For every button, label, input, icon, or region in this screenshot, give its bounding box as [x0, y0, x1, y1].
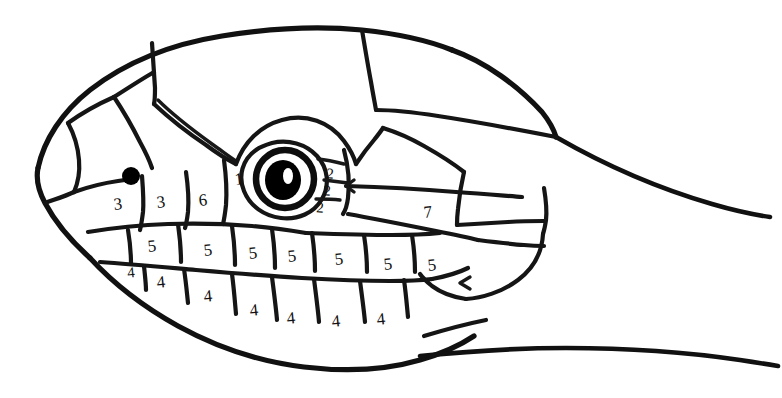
parietal-temporal-border	[376, 110, 556, 137]
scale-label-temporal: 7	[423, 203, 433, 221]
suture-supralabial-div-5	[312, 233, 315, 271]
nostril-icon	[122, 167, 140, 185]
suture-rostral-internasal	[68, 123, 79, 192]
scale-label-preocular: 6	[198, 191, 208, 209]
suture-postocular-upper-border	[356, 128, 383, 164]
neck-dorsal-line	[556, 137, 770, 217]
suture-infralabial-div-4	[272, 277, 277, 320]
scale-label-supralabial-5: 5	[334, 250, 344, 268]
suture-frontal-parietal	[362, 30, 376, 110]
scale-label-postocular-1: 2	[326, 166, 335, 181]
suture-supralabial-div-3	[232, 226, 235, 265]
neck-ventral-line	[420, 348, 778, 366]
suture-infralabial-div-1	[144, 266, 146, 290]
suture-preocular-nasal	[185, 172, 188, 228]
scale-label-nasal-2: 3	[156, 193, 166, 211]
suture-supralabial-div-2	[178, 224, 181, 262]
scale-label-supralabial-1: 5	[147, 237, 157, 255]
scale-label-nasal-1: 3	[113, 195, 123, 213]
snake-head-scalation-figure: 3 3 6 1 2 2 2 7 5 5 5 5 5 5 5 4 4 4 4 4 …	[0, 0, 782, 398]
scale-label-infralabial-5: 4	[286, 309, 296, 327]
scale-label-loreal: 1	[234, 170, 244, 188]
snout-front-outline	[37, 168, 90, 258]
suture-temporal-upper	[383, 128, 464, 172]
suture-frontal-supraocular	[154, 104, 236, 164]
scale-label-supralabial-3: 5	[248, 244, 258, 262]
scale-label-infralabial-3: 4	[203, 287, 213, 305]
scale-label-postocular-2: 2	[323, 183, 332, 198]
mouth-line-rear	[432, 268, 468, 279]
suture-frontal-supraocular-inner	[158, 100, 236, 161]
suture-temporal-rear-2	[457, 221, 544, 225]
scale-label-supralabial-6: 5	[383, 255, 393, 273]
suture-nasal-split	[140, 176, 143, 230]
suture-supralabial-div-6	[364, 235, 367, 272]
eye-pupil-icon	[265, 160, 301, 200]
suture-rear-jaw-mid	[478, 240, 544, 246]
mouth-corner-tick-icon	[460, 277, 470, 289]
suture-nasal-lower	[45, 192, 74, 203]
suture-supralabial-div-4	[272, 229, 275, 268]
suture-supralabial-div-7	[412, 235, 415, 272]
scale-label-infralabial-4: 4	[249, 301, 259, 319]
suture-infralabial-div-3	[232, 274, 236, 314]
suture-supralabial-div-1	[128, 230, 131, 264]
scale-label-supralabial-2: 5	[203, 241, 213, 259]
mouth-line	[100, 262, 432, 281]
suture-loreal-preocular	[223, 160, 226, 224]
scale-label-infralabial-2: 4	[156, 273, 166, 291]
suture-rear-jaw-upper	[543, 188, 546, 234]
suture-infralabial-div-2	[184, 269, 188, 303]
scale-label-infralabial-7: 4	[376, 310, 386, 328]
scale-label-infralabial-6: 4	[331, 312, 341, 330]
eye-highlight	[283, 168, 293, 184]
scale-label-supralabial-7: 5	[427, 256, 437, 274]
suture-temporal-rear-1	[457, 172, 464, 225]
head-dorsal-rear-outline	[452, 50, 556, 137]
scale-label-supralabial-4: 5	[287, 247, 297, 265]
suture-postocular-to-temporal	[346, 186, 522, 197]
neck-upper-short-line	[424, 320, 486, 336]
suture-internasal-prefrontal	[114, 97, 152, 168]
scale-label-infralabial-1: 4	[126, 265, 135, 281]
suture-infralabial-div-6	[360, 281, 365, 322]
suture-supralabial-top-rear	[306, 233, 440, 235]
scale-label-postocular-3: 2	[316, 200, 325, 215]
suture-loreal-nasal-upper	[114, 72, 154, 97]
suture-infralabial-div-7	[404, 280, 408, 317]
suture-infralabial-div-5	[314, 279, 319, 322]
